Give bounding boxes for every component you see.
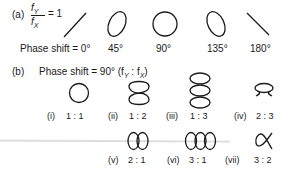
lissajous-3-2-alpha-icon — [254, 131, 276, 151]
figure-vii-ratio: 3 : 2 — [254, 155, 272, 165]
lissajous-45deg-ellipse-icon — [105, 10, 129, 38]
lissajous-3-1-loops-icon — [184, 131, 218, 151]
figure-v-ratio: 2 : 1 — [128, 155, 146, 165]
figure-iv-ratio: 2 : 3 — [256, 111, 274, 121]
part-b-label: (b) — [12, 67, 24, 77]
lissajous-0deg-line-icon — [62, 11, 90, 39]
lissajous-1-2-loops-icon — [127, 80, 151, 106]
figure-iv-index: (iv) — [234, 111, 247, 121]
lissajous-180deg-line-icon — [245, 11, 273, 39]
lissajous-1-3-loops-icon — [188, 72, 212, 110]
figure-ii-index: (ii) — [108, 111, 118, 121]
lissajous-1-1-circle-icon — [68, 82, 90, 104]
phase-180-label: 180° — [250, 44, 271, 54]
part-a-label: (a) — [12, 10, 24, 20]
figure-vi-ratio: 3 : 1 — [189, 155, 207, 165]
figure-vi-index: (vi) — [167, 155, 180, 165]
figure-iii-index: (iii) — [166, 111, 178, 121]
figure-ii-ratio: 1 : 2 — [129, 111, 147, 121]
ratio-numerator-sub: Y — [34, 8, 39, 15]
figure-iii-ratio: 1 : 3 — [190, 111, 208, 121]
ratio-equals: = 1 — [48, 9, 62, 19]
figure-v-index: (v) — [108, 155, 119, 165]
ratio-denominator-sub: X — [34, 22, 39, 29]
lissajous-90deg-circle-icon — [151, 10, 179, 38]
part-b-title: Phase shift = 90° (fY : fX) — [39, 67, 148, 81]
lissajous-2-3-curve-icon — [253, 82, 275, 98]
lissajous-2-1-loops-icon — [126, 131, 150, 151]
lissajous-135deg-ellipse-icon — [204, 10, 228, 38]
phase-45-label: 45° — [108, 44, 123, 54]
phase-90-label: 90° — [156, 44, 171, 54]
figure-vii-index: (vii) — [225, 155, 240, 165]
phase-shift-0-label: Phase shift = 0° — [20, 44, 90, 54]
figure-i-ratio: 1 : 1 — [66, 111, 84, 121]
figure-i-index: (i) — [47, 111, 55, 121]
phase-135-label: 135° — [207, 44, 228, 54]
